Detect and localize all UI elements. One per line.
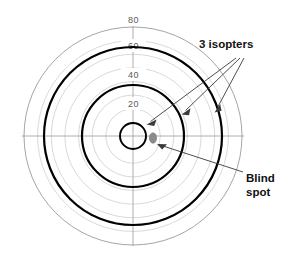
tick-label-80: 80 [128, 15, 139, 25]
isopters-leader-to-middle [186, 58, 241, 111]
visual-field-chart: 80 60 40 20 [0, 0, 296, 274]
figure-canvas: 80 60 40 20 [0, 0, 296, 274]
tick-label-40: 40 [128, 70, 139, 80]
blind-spot-callout-label-line2: spot [246, 186, 270, 198]
blind-spot-marker [149, 133, 156, 144]
isopters-arrow-middle-icon [182, 108, 191, 115]
isopters-callout-label: 3 isopters [199, 38, 253, 50]
tick-label-20: 20 [128, 99, 139, 109]
blind-spot-callout-label-line1: Blind [246, 172, 275, 184]
isopters-callout-leaders [147, 58, 245, 126]
isopters-leader-to-outer [218, 58, 245, 108]
isopters-leader-to-inner [151, 58, 237, 122]
